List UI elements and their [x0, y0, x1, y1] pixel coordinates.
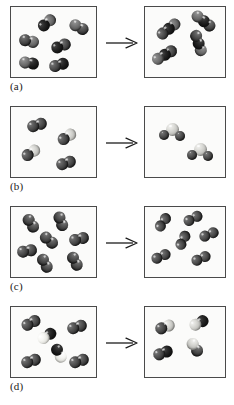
- molecule: [159, 121, 185, 143]
- molecule: [66, 318, 88, 335]
- molecule: [68, 231, 90, 247]
- molecule: [48, 57, 70, 74]
- molecule: [55, 127, 78, 148]
- reaction-arrow-icon: [106, 337, 140, 349]
- molecule: [19, 143, 42, 164]
- molecule: [198, 226, 220, 244]
- molecule: [35, 252, 55, 275]
- molecule: [153, 211, 173, 233]
- molecule: [68, 352, 90, 369]
- panel-label: (a): [10, 80, 23, 92]
- reaction-arrow-icon: [106, 137, 140, 149]
- atom-sphere: [203, 151, 213, 161]
- reaction-arrow-icon: [106, 237, 140, 249]
- molecule: [55, 154, 77, 171]
- specular-highlight: [199, 39, 201, 42]
- molecule: [35, 12, 58, 34]
- molecule: [19, 313, 42, 333]
- molecule: [184, 336, 205, 359]
- atom-sphere: [159, 130, 169, 140]
- molecule: [65, 250, 85, 273]
- product-box-c: [144, 206, 226, 278]
- molecule: [174, 229, 192, 251]
- molecule: [150, 43, 179, 67]
- reaction-panel: (b): [0, 104, 234, 205]
- specular-highlight: [30, 59, 33, 61]
- molecule: [20, 212, 41, 235]
- molecule: [189, 28, 209, 57]
- panel-label: (d): [10, 380, 23, 392]
- molecule: [67, 17, 90, 37]
- molecule: [150, 248, 172, 266]
- molecule: [18, 56, 39, 71]
- product-box-d: [144, 306, 226, 378]
- molecule: [52, 210, 70, 232]
- molecule: [182, 209, 204, 228]
- specular-highlight: [197, 145, 199, 147]
- atom-sphere: [187, 150, 197, 160]
- reaction-panel: (d): [0, 304, 234, 405]
- reactant-box-c: [10, 206, 97, 278]
- molecule: [20, 352, 42, 369]
- molecule: [18, 33, 40, 49]
- specular-highlight: [30, 37, 33, 39]
- atom-sphere: [175, 131, 185, 141]
- molecule: [154, 16, 183, 42]
- panel-label: (b): [10, 180, 23, 192]
- panel-label: (c): [10, 280, 23, 292]
- molecule: [190, 250, 212, 268]
- reaction-arrow-icon: [106, 37, 140, 49]
- molecule: [49, 37, 72, 55]
- molecule: [49, 342, 69, 365]
- molecule: [154, 318, 176, 336]
- product-box-b: [144, 106, 226, 178]
- reactant-box-d: [10, 306, 97, 378]
- molecule: [26, 116, 48, 133]
- molecule: [37, 229, 60, 251]
- reactant-box-a: [10, 6, 97, 78]
- reaction-panel: (a): [0, 4, 234, 105]
- molecule: [187, 141, 213, 163]
- specular-highlight: [169, 125, 171, 127]
- reaction-panel: (c): [0, 204, 234, 305]
- molecule: [187, 313, 210, 332]
- product-box-a: [144, 6, 226, 78]
- molecule: [152, 344, 174, 362]
- reactant-box-b: [10, 106, 97, 178]
